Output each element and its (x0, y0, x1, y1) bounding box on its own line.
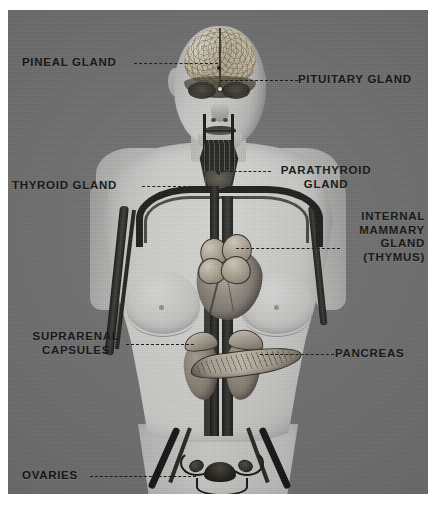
right-nostril (223, 118, 228, 122)
label-suprarenal-capsules: SUPRARENAL CAPSULES (24, 330, 128, 357)
anatomical-plate: PINEAL GLAND PITUITARY GLAND THYROID GLA… (8, 10, 428, 494)
leader-line-thyroid (142, 186, 212, 187)
left-eye-socket (188, 82, 216, 99)
leader-line-pineal (134, 63, 218, 64)
right-nipple (274, 305, 279, 310)
pituitary-gland-marker (218, 87, 222, 91)
leader-line-pancreas (260, 354, 334, 355)
left-nipple (159, 305, 164, 310)
label-pineal-gland: PINEAL GLAND (22, 56, 116, 70)
leader-line-parathyroid (224, 171, 271, 172)
leader-line-pituitary (220, 80, 298, 81)
label-thyroid-gland: THYROID GLAND (12, 179, 117, 193)
label-pituitary-gland: PITUITARY GLAND (298, 73, 412, 87)
pelvic-vessel-arch (196, 478, 248, 494)
leader-line-ovaries (90, 476, 196, 477)
left-nostril (211, 118, 216, 122)
label-ovaries: OVARIES (22, 469, 78, 483)
left-breast-shading (128, 292, 198, 337)
pineal-gland-marker (217, 66, 221, 70)
leader-line-suprarenal (126, 344, 194, 345)
label-parathyroid-gland: PARATHYROID GLAND (274, 164, 378, 191)
right-eye-socket (222, 82, 250, 99)
label-pancreas: PANCREAS (335, 347, 404, 361)
label-internal-mammary-gland-thymus: INTERNAL MAMMARY GLAND (THYMUS) (304, 210, 425, 264)
